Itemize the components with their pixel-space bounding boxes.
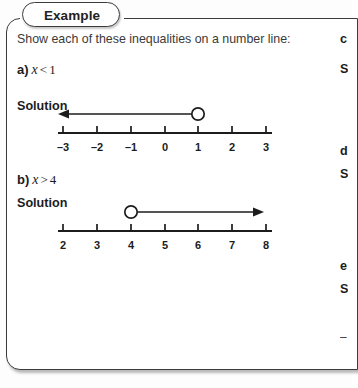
tick-label: 1 [195, 141, 201, 153]
intro-text: Show each of these inequalities on a num… [17, 32, 290, 46]
tick-label: –1 [125, 141, 137, 153]
tick-label: 4 [128, 239, 135, 251]
bleed-item-e: e [340, 259, 347, 273]
item-a-label: a)x<1 [17, 62, 56, 78]
number-line-a: –3 –2 –1 0 1 2 3 [50, 100, 280, 158]
item-a-value: 1 [49, 62, 56, 77]
number-line-a-ray [58, 110, 192, 119]
item-a-operator: < [38, 62, 49, 77]
bleed-number-line-fragment: – [340, 330, 347, 344]
tick-label: 5 [162, 239, 168, 251]
tick-label: 2 [60, 239, 66, 251]
tick-label: 3 [94, 239, 100, 251]
number-line-b-tick-labels: 2 3 4 5 6 7 8 [60, 239, 269, 251]
item-a-tag: a) [17, 62, 29, 77]
bleed-item-d: d [340, 144, 348, 158]
tick-label: 7 [229, 239, 235, 251]
tick-label: 8 [263, 239, 269, 251]
number-line-a-open-circle [192, 108, 204, 120]
item-b-tag: b) [17, 172, 29, 187]
bleed-item-c: c [340, 32, 347, 46]
number-line-b-ray [137, 208, 264, 217]
number-line-a-ticks [63, 126, 266, 133]
tick-label: 0 [162, 141, 168, 153]
bleed-solution-d: S [340, 167, 348, 181]
bleed-solution-e: S [340, 282, 348, 296]
number-line-b-open-circle [125, 206, 137, 218]
tick-label: 2 [229, 141, 235, 153]
tick-label: –3 [57, 141, 69, 153]
tick-label: –2 [91, 141, 103, 153]
number-line-b-ticks [63, 224, 266, 231]
tick-label: 3 [263, 141, 269, 153]
item-a-variable: x [29, 62, 38, 77]
bleed-solution-c: S [340, 62, 348, 76]
item-b-value: 4 [50, 172, 57, 187]
number-line-a-tick-labels: –3 –2 –1 0 1 2 3 [57, 141, 269, 153]
tick-label: 6 [195, 239, 201, 251]
item-b-variable: x [29, 172, 38, 187]
item-b-operator: > [39, 172, 50, 187]
item-b-label: b)x>4 [17, 172, 56, 188]
number-line-b: 2 3 4 5 6 7 8 [50, 198, 280, 256]
